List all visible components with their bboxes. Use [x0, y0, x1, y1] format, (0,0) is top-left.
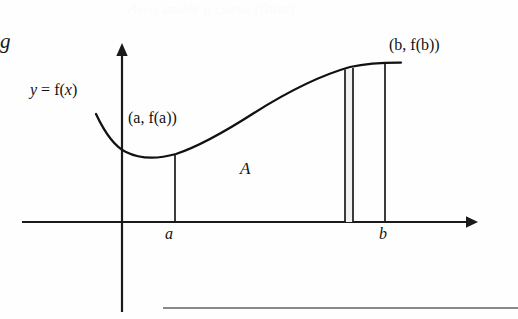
function-label-close: )	[72, 81, 77, 98]
x-axis-arrowhead	[466, 216, 478, 228]
x-tick-label-b: b	[379, 226, 387, 242]
x-tick-label-a: a	[165, 226, 173, 242]
area-label: A	[240, 160, 250, 177]
function-label-x: x	[65, 81, 72, 98]
point-b-label: (b, f(b))	[389, 37, 440, 53]
representative-strip-fill	[346, 69, 354, 222]
curve-diagram	[0, 0, 518, 319]
function-label: y = f(x)	[30, 82, 77, 98]
point-a-label: (a, f(a))	[128, 110, 177, 126]
function-label-f: f(	[54, 81, 65, 98]
function-label-equals: =	[37, 81, 54, 98]
figure-canvas: Area under a curve (faint) g y = f(x) (a…	[0, 0, 518, 319]
y-axis-arrowhead	[116, 43, 127, 56]
margin-letter: g	[0, 31, 11, 52]
ghost-header-text: Area under a curve (faint)	[128, 2, 295, 17]
